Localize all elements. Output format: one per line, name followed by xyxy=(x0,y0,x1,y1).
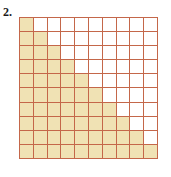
grid-cell-empty[interactable] xyxy=(116,102,130,116)
grid-cell-shaded[interactable] xyxy=(20,32,34,46)
grid-cell-shaded[interactable] xyxy=(33,116,47,130)
grid-cell-empty[interactable] xyxy=(116,18,130,32)
grid-cell-shaded[interactable] xyxy=(61,60,75,74)
grid-cell-empty[interactable] xyxy=(144,74,158,88)
grid-cell-shaded[interactable] xyxy=(75,74,89,88)
grid-cell-empty[interactable] xyxy=(116,60,130,74)
grid-cell-empty[interactable] xyxy=(102,18,116,32)
grid-cell-shaded[interactable] xyxy=(102,130,116,144)
grid-cell-empty[interactable] xyxy=(75,46,89,60)
grid-cell-shaded[interactable] xyxy=(33,88,47,102)
grid-cell-empty[interactable] xyxy=(88,32,102,46)
grid-cell-empty[interactable] xyxy=(102,60,116,74)
grid-cell-shaded[interactable] xyxy=(33,74,47,88)
grid-cell-shaded[interactable] xyxy=(116,130,130,144)
grid-cell-shaded[interactable] xyxy=(20,74,34,88)
grid-cell-shaded[interactable] xyxy=(88,144,102,158)
grid-cell-empty[interactable] xyxy=(130,18,144,32)
grid-cell-empty[interactable] xyxy=(130,116,144,130)
grid-cell-empty[interactable] xyxy=(75,60,89,74)
grid-cell-shaded[interactable] xyxy=(61,74,75,88)
grid-cell-shaded[interactable] xyxy=(75,116,89,130)
grid-cell-shaded[interactable] xyxy=(102,116,116,130)
grid-cell-empty[interactable] xyxy=(88,18,102,32)
grid-cell-shaded[interactable] xyxy=(88,88,102,102)
grid-cell-empty[interactable] xyxy=(116,46,130,60)
grid-cell-shaded[interactable] xyxy=(47,102,61,116)
grid-cell-shaded[interactable] xyxy=(47,46,61,60)
grid-cell-empty[interactable] xyxy=(116,74,130,88)
grid-cell-shaded[interactable] xyxy=(33,60,47,74)
grid-cell-empty[interactable] xyxy=(144,46,158,60)
grid-cell-shaded[interactable] xyxy=(20,88,34,102)
grid-cell-shaded[interactable] xyxy=(33,32,47,46)
grid-cell-empty[interactable] xyxy=(102,32,116,46)
grid-cell-shaded[interactable] xyxy=(130,130,144,144)
grid-cell-shaded[interactable] xyxy=(47,60,61,74)
grid-cell-shaded[interactable] xyxy=(102,144,116,158)
grid-cell-shaded[interactable] xyxy=(88,130,102,144)
grid-cell-shaded[interactable] xyxy=(61,102,75,116)
grid-cell-shaded[interactable] xyxy=(47,130,61,144)
grid-cell-empty[interactable] xyxy=(88,74,102,88)
grid-cell-shaded[interactable] xyxy=(116,116,130,130)
grid-cell-empty[interactable] xyxy=(47,32,61,46)
grid-cell-shaded[interactable] xyxy=(47,88,61,102)
grid-cell-empty[interactable] xyxy=(144,60,158,74)
grid-cell-empty[interactable] xyxy=(33,18,47,32)
grid-cell-empty[interactable] xyxy=(61,46,75,60)
grid-cell-empty[interactable] xyxy=(116,32,130,46)
grid-cell-shaded[interactable] xyxy=(20,18,34,32)
grid-cell-empty[interactable] xyxy=(116,88,130,102)
grid-cell-shaded[interactable] xyxy=(116,144,130,158)
grid-cell-empty[interactable] xyxy=(130,60,144,74)
grid-cell-empty[interactable] xyxy=(61,32,75,46)
grid-cell-empty[interactable] xyxy=(144,116,158,130)
grid-cell-empty[interactable] xyxy=(102,46,116,60)
grid-cell-empty[interactable] xyxy=(88,46,102,60)
grid-cell-shaded[interactable] xyxy=(88,116,102,130)
grid-cell-empty[interactable] xyxy=(130,32,144,46)
grid-cell-shaded[interactable] xyxy=(88,102,102,116)
grid-cell-empty[interactable] xyxy=(75,18,89,32)
grid-cell-shaded[interactable] xyxy=(144,144,158,158)
grid-cell-empty[interactable] xyxy=(75,32,89,46)
grid-cell-shaded[interactable] xyxy=(20,116,34,130)
grid-cell-shaded[interactable] xyxy=(20,46,34,60)
grid-cell-empty[interactable] xyxy=(144,18,158,32)
grid-cell-empty[interactable] xyxy=(130,88,144,102)
grid-cell-shaded[interactable] xyxy=(33,46,47,60)
grid-cell-shaded[interactable] xyxy=(61,130,75,144)
grid-cell-shaded[interactable] xyxy=(61,144,75,158)
grid-cell-shaded[interactable] xyxy=(130,144,144,158)
grid-cell-shaded[interactable] xyxy=(20,102,34,116)
grid-cell-shaded[interactable] xyxy=(61,88,75,102)
grid-cell-shaded[interactable] xyxy=(75,88,89,102)
grid-cell-empty[interactable] xyxy=(144,32,158,46)
grid-cell-shaded[interactable] xyxy=(20,144,34,158)
grid-cell-empty[interactable] xyxy=(130,74,144,88)
grid-cell-empty[interactable] xyxy=(102,74,116,88)
grid-cell-shaded[interactable] xyxy=(33,144,47,158)
grid-cell-empty[interactable] xyxy=(47,18,61,32)
grid-cell-shaded[interactable] xyxy=(61,116,75,130)
grid-cell-shaded[interactable] xyxy=(75,144,89,158)
grid-cell-empty[interactable] xyxy=(144,88,158,102)
grid-cell-shaded[interactable] xyxy=(47,74,61,88)
grid-cell-shaded[interactable] xyxy=(33,102,47,116)
grid-cell-shaded[interactable] xyxy=(102,102,116,116)
grid-cell-empty[interactable] xyxy=(130,102,144,116)
grid-cell-empty[interactable] xyxy=(144,102,158,116)
grid-cell-empty[interactable] xyxy=(130,46,144,60)
grid-cell-empty[interactable] xyxy=(88,60,102,74)
grid-cell-shaded[interactable] xyxy=(75,130,89,144)
grid-cell-shaded[interactable] xyxy=(75,102,89,116)
grid-cell-shaded[interactable] xyxy=(47,116,61,130)
grid-cell-shaded[interactable] xyxy=(47,144,61,158)
grid-cell-empty[interactable] xyxy=(144,130,158,144)
grid-cell-empty[interactable] xyxy=(102,88,116,102)
grid-cell-shaded[interactable] xyxy=(33,130,47,144)
grid-cell-shaded[interactable] xyxy=(20,130,34,144)
grid-cell-shaded[interactable] xyxy=(20,60,34,74)
grid-cell-empty[interactable] xyxy=(61,18,75,32)
